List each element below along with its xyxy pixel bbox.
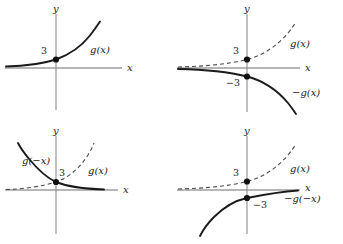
label-negative-three: −3	[253, 199, 267, 210]
graph-panel-top-left: 3 g(x) x y	[0, 0, 171, 122]
label-g-of-x: g(x)	[290, 163, 310, 174]
label-axis-x: x	[123, 184, 129, 195]
curve-neg-g-of-x-solid	[178, 69, 296, 114]
label-axis-x: x	[305, 182, 311, 193]
label-neg-g-of-neg-x: −g(−x)	[284, 193, 321, 204]
point-y-intercept	[53, 179, 59, 185]
label-three: 3	[59, 167, 65, 178]
label-three: 3	[233, 45, 239, 56]
label-axis-y: y	[243, 3, 250, 14]
graph-panel-top-right: 3 −3 g(x) −g(x) x y	[172, 0, 343, 122]
label-neg-g-of-x: −g(x)	[292, 87, 320, 98]
graph-panel-bottom-left: 3 g(−x) g(x) x y	[0, 122, 171, 244]
point-y-intercept-negative	[244, 73, 250, 79]
label-g-of-neg-x: g(−x)	[22, 155, 50, 166]
figure-root: 3 g(x) x y 3 −3 g(x) −g(x) x y	[0, 0, 343, 244]
point-y-intercept	[53, 56, 59, 62]
label-axis-x: x	[127, 62, 133, 73]
point-y-intercept-negative	[244, 195, 250, 201]
curve-g-of-x-dashed	[6, 143, 94, 190]
label-negative-three: −3	[226, 77, 240, 88]
label-g-of-x: g(x)	[88, 165, 108, 176]
point-y-intercept-positive	[244, 178, 250, 184]
axes-group	[5, 14, 122, 110]
axes-group	[177, 136, 300, 234]
label-g-of-x: g(x)	[90, 44, 110, 55]
label-axis-y: y	[52, 3, 59, 14]
label-axis-x: x	[305, 62, 311, 73]
graph-panel-bottom-right: 3 −3 g(x) −g(−x) x y	[172, 122, 343, 244]
label-axis-y: y	[52, 125, 59, 136]
label-g-of-x: g(x)	[290, 38, 310, 49]
point-y-intercept-positive	[244, 56, 250, 62]
label-three: 3	[233, 167, 239, 178]
label-three: 3	[41, 45, 47, 56]
label-axis-y: y	[243, 125, 250, 136]
